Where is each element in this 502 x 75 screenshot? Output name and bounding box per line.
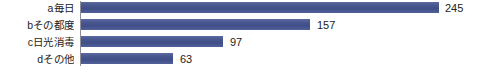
bar-row: bその都度 157 xyxy=(0,17,502,33)
bar-value-label: 63 xyxy=(180,51,192,67)
category-label: dその他 xyxy=(0,51,74,67)
bar-value-label: 97 xyxy=(230,34,242,50)
plot-area: a毎日 245 bその都度 157 c日光消毒 97 dその他 63 xyxy=(0,0,502,75)
bar-segment xyxy=(81,53,173,64)
category-label: bその都度 xyxy=(0,17,74,33)
horizontal-bar-chart: a毎日 245 bその都度 157 c日光消毒 97 dその他 63 xyxy=(0,0,502,75)
bar-value-label: 157 xyxy=(317,17,335,33)
category-label: c日光消毒 xyxy=(0,34,74,50)
bar-row: a毎日 245 xyxy=(0,0,502,16)
bar-segment xyxy=(81,19,310,30)
bar-row: dその他 63 xyxy=(0,51,502,67)
bar-row: c日光消毒 97 xyxy=(0,34,502,50)
category-label: a毎日 xyxy=(0,0,74,16)
bar-segment xyxy=(81,36,223,47)
bar-value-label: 245 xyxy=(445,0,463,16)
bar-segment xyxy=(81,2,439,13)
